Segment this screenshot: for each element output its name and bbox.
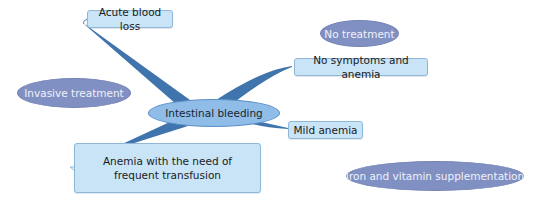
- topic-label: No symptoms and anemia: [295, 53, 427, 81]
- floating-topic-iron-vitamin[interactable]: Iron and vitamin supplementation: [346, 161, 524, 191]
- topic-no-symptoms-and-anemia[interactable]: No symptoms and anemia: [294, 58, 428, 76]
- topic-label: Anemia with the need of frequent transfu…: [97, 154, 238, 182]
- floating-topic-label: Invasive treatment: [24, 87, 123, 99]
- central-topic[interactable]: Intestinal bleeding: [148, 99, 280, 127]
- topic-acute-blood-loss[interactable]: Acute blood loss: [87, 10, 173, 28]
- floating-topic-no-treatment[interactable]: No treatment: [320, 20, 399, 47]
- floating-topic-invasive-treatment[interactable]: Invasive treatment: [17, 78, 131, 108]
- topic-anemia-frequent-transfusion[interactable]: Anemia with the need of frequent transfu…: [74, 143, 261, 193]
- topic-mild-anemia[interactable]: Mild anemia: [288, 121, 363, 139]
- floating-topic-label: No treatment: [324, 28, 394, 40]
- topic-label: Acute blood loss: [88, 5, 172, 33]
- mind-map-canvas: Intestinal bleeding Acute blood loss No …: [0, 0, 539, 208]
- central-topic-label: Intestinal bleeding: [165, 107, 263, 119]
- floating-topic-label: Iron and vitamin supplementation: [346, 170, 524, 182]
- topic-label: Mild anemia: [293, 123, 357, 137]
